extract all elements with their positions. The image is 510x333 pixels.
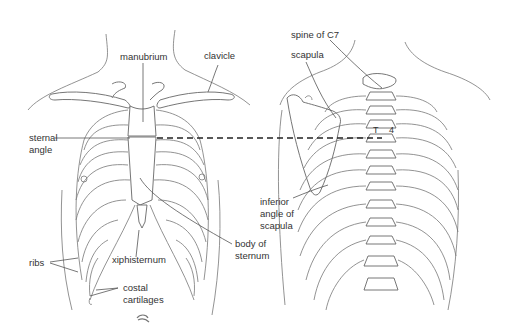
label-body-of-sternum-line2: sternum xyxy=(235,250,269,261)
label-xiphisternum: xiphisternum xyxy=(112,254,166,265)
umbilicus-icon xyxy=(137,315,149,322)
label-ribs: ribs xyxy=(29,257,44,268)
label-scapula: scapula xyxy=(291,49,324,60)
label-t4-letter: T xyxy=(373,125,379,136)
anatomy-illustration xyxy=(0,0,510,333)
label-inferior-angle-line1: inferior xyxy=(260,196,289,207)
label-inferior-angle-line3: scapula xyxy=(260,220,293,231)
label-costal-cartilages-line1: costal xyxy=(123,282,148,293)
label-inferior-angle-line2: angle of xyxy=(260,208,294,219)
anterior-ribs-left xyxy=(76,110,135,305)
label-clavicle: clavicle xyxy=(204,50,235,61)
label-costal-cartilages-line2: cartilages xyxy=(123,294,164,305)
label-sternal-angle-line2: angle xyxy=(29,144,52,155)
label-body-of-sternum-line1: body of xyxy=(235,238,266,249)
clavicles xyxy=(49,82,234,108)
label-sternal-angle-line1: sternal xyxy=(29,132,58,143)
label-spine-of-c7: spine of C7 xyxy=(291,29,339,40)
label-t4-number: 4 xyxy=(389,125,394,136)
vertebral-column xyxy=(363,74,398,291)
label-manubrium: manubrium xyxy=(120,51,168,62)
scapula xyxy=(287,95,341,195)
